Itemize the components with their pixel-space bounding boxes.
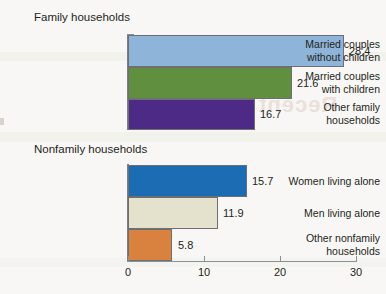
bar-value-married-with-children: 21.6 xyxy=(297,77,318,89)
bar-women-living-alone xyxy=(128,165,247,197)
bar-value-married-without-children: 28.4 xyxy=(349,45,370,57)
x-tick-label-0: 0 xyxy=(113,266,143,278)
bar-value-men-living-alone: 11.9 xyxy=(223,207,244,219)
bar-label-line2: households xyxy=(326,114,380,126)
x-tick-20 xyxy=(280,256,281,261)
bar-other-nonfamily-households xyxy=(128,229,172,261)
bar-label-married-with-children: Married couples with children xyxy=(264,70,386,95)
bar-men-living-alone xyxy=(128,197,218,229)
page-edge-artifact xyxy=(0,118,4,125)
bar-value-other-nonfamily-households: 5.8 xyxy=(178,239,193,251)
bar-label-women-living-alone: Women living alone xyxy=(264,175,386,188)
bar-label-other-nonfamily-households: Other nonfamily households xyxy=(264,232,386,257)
x-tick-label-20: 20 xyxy=(265,266,295,278)
group-heading-nonfamily: Nonfamily households xyxy=(34,143,147,155)
group-heading-family: Family households xyxy=(34,11,130,23)
bar-label-men-living-alone: Men living alone xyxy=(264,207,386,220)
paper-bleed-streak xyxy=(0,132,386,142)
x-tick-10 xyxy=(204,256,205,261)
x-axis-line xyxy=(127,261,357,262)
chart-figure: Recent Family households Married couples… xyxy=(0,0,386,294)
bar-label-line1: Other nonfamily xyxy=(306,232,380,244)
x-tick-0 xyxy=(128,256,129,261)
bar-label-line2: with children xyxy=(322,83,380,95)
bar-value-women-living-alone: 15.7 xyxy=(252,175,273,187)
bar-label-line1: Other family xyxy=(323,101,380,113)
bar-label-line1: Women living alone xyxy=(289,175,380,187)
bar-value-other-family-households: 16.7 xyxy=(260,108,281,120)
bar-label-other-family-households: Other family households xyxy=(264,101,386,126)
x-tick-label-10: 10 xyxy=(189,266,219,278)
x-tick-label-30: 30 xyxy=(341,266,371,278)
bar-label-line2: households xyxy=(326,245,380,257)
x-tick-30 xyxy=(356,256,357,261)
bar-label-line1: Men living alone xyxy=(304,207,380,219)
bar-other-family-households xyxy=(128,99,255,130)
